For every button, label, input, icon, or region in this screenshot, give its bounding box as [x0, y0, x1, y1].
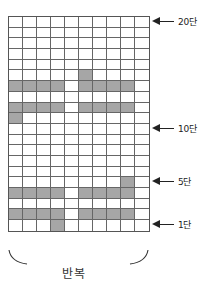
grid-cell — [37, 60, 51, 71]
grid-cell — [65, 167, 79, 178]
grid-cell — [23, 38, 37, 49]
row-label-text: 5단 — [178, 175, 191, 188]
grid-cell — [121, 70, 135, 81]
grid-cell — [37, 70, 51, 81]
grid-cell — [93, 156, 107, 167]
grid-cell — [37, 113, 51, 124]
grid-cell — [23, 17, 37, 28]
grid-cell — [107, 145, 121, 156]
grid-cell — [37, 188, 51, 199]
grid-cell — [65, 124, 79, 135]
grid-cell — [23, 156, 37, 167]
grid-cell — [93, 28, 107, 39]
grid-cell — [121, 135, 135, 146]
grid-cell — [93, 103, 107, 114]
row-label: 5단 — [154, 176, 191, 188]
grid-cell — [135, 17, 149, 28]
grid-cell — [79, 103, 93, 114]
grid-cell — [23, 188, 37, 199]
grid-cell — [51, 145, 65, 156]
grid-cell — [9, 220, 23, 231]
grid-cell — [23, 124, 37, 135]
arrow-left-icon — [154, 21, 174, 22]
grid-cell — [135, 220, 149, 231]
grid-cell — [23, 177, 37, 188]
grid-cell — [23, 28, 37, 39]
grid-cell — [51, 113, 65, 124]
grid-cell — [107, 188, 121, 199]
grid-cell — [107, 81, 121, 92]
grid-cell — [9, 103, 23, 114]
grid-cell — [121, 209, 135, 220]
repeat-bracket-icon — [0, 236, 205, 276]
grid-cell — [121, 38, 135, 49]
grid-cell — [9, 167, 23, 178]
grid-cell — [9, 135, 23, 146]
row-label: 1단 — [154, 219, 191, 231]
grid-cell — [37, 28, 51, 39]
grid-cell — [51, 167, 65, 178]
grid-cell — [79, 17, 93, 28]
row-label: 20단 — [154, 15, 197, 27]
grid-cell — [121, 188, 135, 199]
grid-cell — [51, 103, 65, 114]
grid-cell — [79, 113, 93, 124]
grid-cell — [121, 199, 135, 210]
grid-cell — [93, 199, 107, 210]
row-label: 10단 — [154, 122, 197, 134]
grid-cell — [65, 145, 79, 156]
grid-cell — [79, 209, 93, 220]
grid-cell — [93, 167, 107, 178]
grid-cell — [107, 17, 121, 28]
grid-cell — [135, 49, 149, 60]
grid-cell — [121, 60, 135, 71]
grid-cell — [51, 38, 65, 49]
arrow-left-icon — [154, 181, 174, 182]
grid-cell — [37, 49, 51, 60]
grid-cell — [51, 92, 65, 103]
grid-cell — [135, 167, 149, 178]
grid-cell — [121, 156, 135, 167]
grid-cell — [65, 70, 79, 81]
grid-cell — [65, 135, 79, 146]
grid-cell — [121, 28, 135, 39]
knitting-chart-grid — [8, 16, 150, 232]
grid-cell — [9, 188, 23, 199]
grid-cell — [65, 220, 79, 231]
grid-cell — [107, 177, 121, 188]
grid-cell — [79, 220, 93, 231]
grid-cell — [107, 220, 121, 231]
grid-cell — [51, 220, 65, 231]
grid-cell — [37, 81, 51, 92]
grid-cell — [79, 188, 93, 199]
grid-cell — [93, 220, 107, 231]
grid-cell — [107, 167, 121, 178]
grid-cell — [51, 124, 65, 135]
grid-cell — [79, 199, 93, 210]
grid-cell — [93, 113, 107, 124]
grid-cell — [65, 17, 79, 28]
grid-cell — [121, 81, 135, 92]
arrow-left-icon — [154, 224, 174, 225]
grid-cell — [51, 60, 65, 71]
repeat-label: 반복 — [62, 264, 86, 281]
grid-cell — [93, 17, 107, 28]
grid-cell — [107, 70, 121, 81]
grid-cell — [65, 113, 79, 124]
grid-cell — [51, 70, 65, 81]
grid-cell — [135, 28, 149, 39]
grid-cell — [23, 145, 37, 156]
grid-cell — [135, 188, 149, 199]
grid-cell — [107, 92, 121, 103]
grid-cell — [23, 167, 37, 178]
grid-cell — [79, 28, 93, 39]
grid-cell — [9, 199, 23, 210]
grid-cell — [65, 49, 79, 60]
grid-cell — [23, 103, 37, 114]
grid-cell — [9, 209, 23, 220]
grid-cell — [23, 70, 37, 81]
grid-cell — [9, 81, 23, 92]
grid-cell — [79, 145, 93, 156]
grid-cell — [93, 177, 107, 188]
grid-cell — [65, 60, 79, 71]
